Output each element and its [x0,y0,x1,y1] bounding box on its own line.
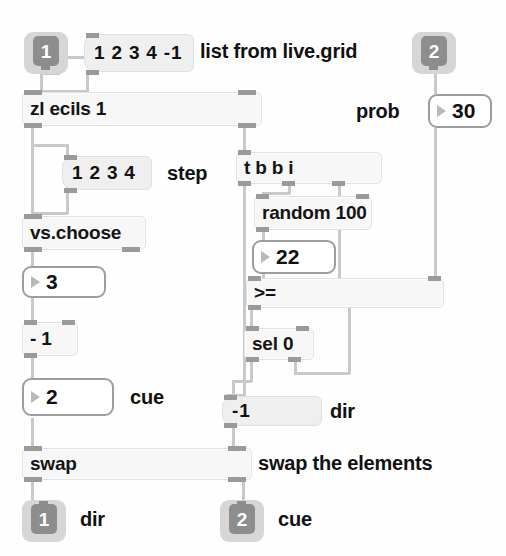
random-inlet-left-nub[interactable] [256,194,269,199]
outlet-2-label: 2 [237,510,248,529]
inlet-2-label: 2 [429,42,440,61]
cord-num2-to-swap [31,418,34,448]
minus1-outlet-nub[interactable] [24,353,37,358]
outlet-1-dir[interactable]: 1 [22,496,66,542]
inlet-1-label: 1 [41,42,52,61]
message-list-label: 1 2 3 4 -1 [85,42,182,64]
cord-sel0-right-up [348,308,351,374]
sel0-inlet-right-nub[interactable] [296,326,309,331]
message-list-inlet-nub[interactable] [86,33,99,38]
object-trigger-label: t b b i [237,157,293,179]
comment-outlet-dir: dir [80,508,105,531]
cord-sel0-right-h [294,372,350,375]
cord-zl-right-to-trigger [243,124,246,152]
comment-prob: prob [356,100,400,123]
object-minus-one[interactable]: - 1 [22,322,78,356]
object-greater-equal-label: >= [247,282,276,304]
message-step-inlet-nub[interactable] [64,155,77,160]
random-inlet-right-nub[interactable] [356,194,369,199]
message-dir-inlet-nub[interactable] [224,395,237,400]
comment-list-from: list from live.grid [200,40,357,63]
sel0-inlet-left-nub[interactable] [246,326,259,331]
object-swap[interactable]: swap [22,448,252,480]
cord-minus1-to-num2 [31,356,34,378]
comment-dir-mid: dir [330,400,355,423]
message-box-dir[interactable]: -1 [222,396,322,426]
zl-outlet-right-nub[interactable] [238,123,256,128]
number-box-cue-label: 2 [46,385,58,409]
number-box-triangle-icon [261,251,270,263]
message-step-outlet-nub[interactable] [64,188,77,193]
message-list-outlet-nub[interactable] [86,70,99,75]
number-box-triangle-icon [31,391,40,403]
max-patcher-canvas: 1 2 1 2 3 4 -1 list from live.grid zl ec… [0,0,506,556]
message-dir-outlet-nub[interactable] [224,423,237,428]
vschoose-outlet-left-nub[interactable] [24,247,42,252]
comment-step: step [167,162,207,185]
ge-outlet-nub[interactable] [248,305,261,310]
number-box-step-label: 3 [46,270,58,294]
cord-zl-to-vschoose [31,124,34,216]
outlet-1-label: 1 [39,510,50,529]
trigger-outlet-3-nub[interactable] [332,181,345,186]
inlet-2-top[interactable]: 2 [412,28,456,74]
inlet-1-top[interactable]: 1 [24,28,68,74]
object-sel-zero[interactable]: sel 0 [244,328,314,360]
object-trigger[interactable]: t b b i [236,152,382,184]
object-zl-ecils-label: zl ecils 1 [23,98,106,120]
cord-zl-to-step [31,144,69,147]
swap-inlet-left-nub[interactable] [24,446,42,451]
message-step-label: 1 2 3 4 [63,162,136,184]
number-box-triangle-icon [437,105,446,117]
message-box-step[interactable]: 1 2 3 4 [62,156,152,190]
object-zl-ecils[interactable]: zl ecils 1 [22,92,262,126]
ge-inlet-left-nub[interactable] [248,276,261,281]
sel0-outlet-right-nub[interactable] [288,357,301,362]
outlet-nub [237,501,246,510]
inlet-nub [429,61,438,70]
number-box-random-value[interactable]: 22 [252,240,336,274]
ge-inlet-right-nub[interactable] [428,276,441,281]
minus1-inlet-right-nub[interactable] [62,320,75,325]
outlet-2-cue[interactable]: 2 [220,496,264,542]
vschoose-inlet-nub[interactable] [24,214,42,219]
message-box-list[interactable]: 1 2 3 4 -1 [84,34,194,72]
inlet-nub [41,61,50,70]
object-greater-equal[interactable]: >= [246,278,444,308]
outlet-nub [39,501,48,510]
minus1-inlet-left-nub[interactable] [24,320,37,325]
zl-inlet-left-nub[interactable] [24,90,42,95]
number-box-cue-value[interactable]: 2 [22,378,114,416]
zl-inlet-right-nub[interactable] [238,90,256,95]
cord-sel0-left-h [232,380,252,383]
message-dir-label: -1 [223,400,251,422]
vschoose-outlet-right-nub[interactable] [122,247,140,252]
sel0-outlet-left-nub[interactable] [246,357,259,362]
trigger-outlet-2-nub[interactable] [282,181,295,186]
number-box-prob-label: 30 [452,99,475,123]
swap-outlet-right-nub[interactable] [228,477,246,482]
swap-inlet-right-nub[interactable] [228,446,246,451]
cord-sel0-left-down [250,360,253,382]
object-random-label: random 100 [255,202,367,224]
swap-outlet-left-nub[interactable] [24,477,42,482]
number-box-random-label: 22 [276,245,299,269]
object-vs-choose-label: vs.choose [23,222,121,244]
number-box-prob-value[interactable]: 30 [428,94,492,128]
cord-sel0-left-to-dirmsg [232,380,235,396]
trigger-inlet-nub[interactable] [238,150,251,155]
object-vs-choose[interactable]: vs.choose [22,216,146,250]
zl-outlet-left-nub[interactable] [24,123,42,128]
cord-ge-to-sel0 [250,308,253,326]
cord-inlet2-to-prob [434,72,437,94]
random-outlet-nub[interactable] [256,227,269,232]
cord-prob-to-ge-right [434,128,437,286]
object-swap-label: swap [23,453,77,475]
trigger-outlet-1-nub[interactable] [238,181,251,186]
cord-num3-to-minus1 [31,296,34,320]
object-sel-zero-label: sel 0 [245,333,293,355]
object-minus-one-label: - 1 [23,328,52,350]
comment-outlet-cue: cue [278,508,312,531]
number-box-step-value[interactable]: 3 [22,266,106,298]
object-random[interactable]: random 100 [254,196,372,230]
